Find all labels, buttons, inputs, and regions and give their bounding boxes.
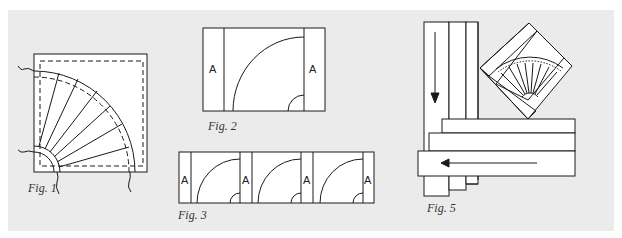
fig5-fan-block [480, 23, 572, 119]
fig3-row [179, 152, 374, 203]
fig3-strip-label: A [242, 174, 249, 186]
fig2-block [203, 28, 325, 111]
fig2-strip-right-label: A [309, 63, 316, 75]
fig5-border [418, 22, 575, 196]
fig5-caption: Fig. 5 [427, 201, 456, 216]
quilt-diagram-canvas [0, 0, 622, 238]
fig1-block [18, 54, 147, 194]
fig3-strip-label: A [364, 174, 371, 186]
fig2-caption: Fig. 2 [208, 119, 237, 134]
fig3-caption: Fig. 3 [178, 208, 207, 223]
fig3-strip-label: A [181, 174, 188, 186]
fig3-strip-label: A [303, 174, 310, 186]
fig2-strip-left-label: A [209, 63, 216, 75]
fig1-caption: Fig. 1 [28, 181, 57, 196]
